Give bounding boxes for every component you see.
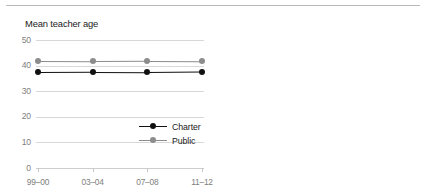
x-axis-tick-mark: [38, 168, 39, 172]
x-axis-tick-mark: [147, 168, 148, 172]
y-axis-tick-label: 0: [10, 164, 31, 173]
legend-item-label: Public: [172, 136, 195, 146]
data-point-marker: [35, 69, 41, 75]
data-point-marker: [35, 58, 41, 64]
chart-panel-regression-adjusted-difference: Regression-adjusted difference: Mean tea…: [213, 0, 426, 196]
legend-item-label: Charter: [172, 122, 201, 132]
x-axis-tick-label: 07–08: [125, 178, 169, 187]
gridline: [36, 117, 204, 118]
gridline: [36, 91, 204, 92]
x-axis-tick-label: 03–04: [71, 178, 115, 187]
data-point-marker: [144, 58, 150, 64]
data-point-marker: [199, 58, 205, 64]
data-point-marker: [199, 69, 205, 75]
chart-title-left: Mean teacher age: [25, 18, 98, 30]
series-line: [147, 72, 202, 74]
series-line: [93, 72, 148, 73]
series-line: [38, 72, 93, 73]
data-point-marker: [90, 69, 96, 75]
figure-root: Mean teacher age 0102030405099–0003–0407…: [0, 0, 426, 196]
y-axis-tick-label: 20: [10, 112, 31, 121]
series-line: [38, 61, 93, 62]
x-axis-tick-label: 99–00: [16, 178, 60, 187]
data-point-marker: [90, 58, 96, 64]
series-line: [93, 61, 148, 62]
series-line: [147, 61, 202, 62]
x-axis-tick-mark: [202, 168, 203, 172]
chart-panel-mean-teacher-age: Mean teacher age 0102030405099–0003–0407…: [0, 0, 213, 196]
gridline: [36, 40, 204, 41]
x-axis-tick-mark: [93, 168, 94, 172]
y-axis-tick-label: 30: [10, 87, 31, 96]
gridline: [36, 168, 204, 169]
y-axis-tick-label: 40: [10, 61, 31, 70]
gridline: [36, 66, 204, 67]
y-axis-tick-label: 10: [10, 138, 31, 147]
plot-area-left: 0102030405099–0003–0407–0811–12: [36, 40, 204, 168]
y-axis-tick-label: 50: [10, 36, 31, 45]
data-point-marker: [144, 69, 150, 75]
